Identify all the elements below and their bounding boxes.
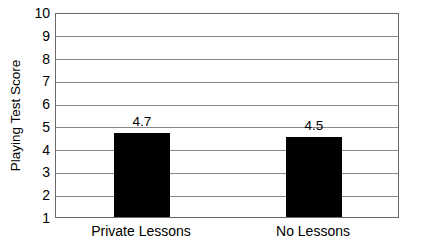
y-axis-tick-label: 6 — [18, 97, 50, 111]
y-axis-tick-label: 8 — [18, 52, 50, 66]
y-axis-tick-label: 3 — [18, 165, 50, 179]
y-axis-tick-label: 5 — [18, 120, 50, 134]
bar-value-label: 4.7 — [133, 114, 152, 129]
x-axis-category-label: No Lessons — [276, 223, 350, 239]
gridline — [56, 82, 398, 83]
bar-chart: Playing Test Score 12345678910 4.74.5 Pr… — [0, 0, 422, 247]
gridline — [56, 36, 398, 37]
gridline — [56, 150, 398, 151]
plot-area: 4.74.5 — [55, 13, 399, 218]
gridline — [56, 105, 398, 106]
y-axis-tick-label: 9 — [18, 29, 50, 43]
gridline — [56, 173, 398, 174]
y-axis-tick-label: 1 — [18, 211, 50, 225]
bar — [286, 137, 342, 217]
y-axis-tick-label: 2 — [18, 188, 50, 202]
gridline — [56, 127, 398, 128]
y-axis-tick-label: 4 — [18, 143, 50, 157]
bar — [114, 133, 170, 217]
gridline — [56, 59, 398, 60]
y-axis-tick-label: 10 — [18, 6, 50, 20]
x-axis-category-label: Private Lessons — [91, 223, 191, 239]
x-axis-category-labels: Private LessonsNo Lessons — [55, 221, 399, 245]
y-axis-tick-labels: 12345678910 — [18, 13, 50, 218]
bar-value-label: 4.5 — [305, 118, 324, 133]
gridline — [56, 196, 398, 197]
y-axis-tick-label: 7 — [18, 74, 50, 88]
